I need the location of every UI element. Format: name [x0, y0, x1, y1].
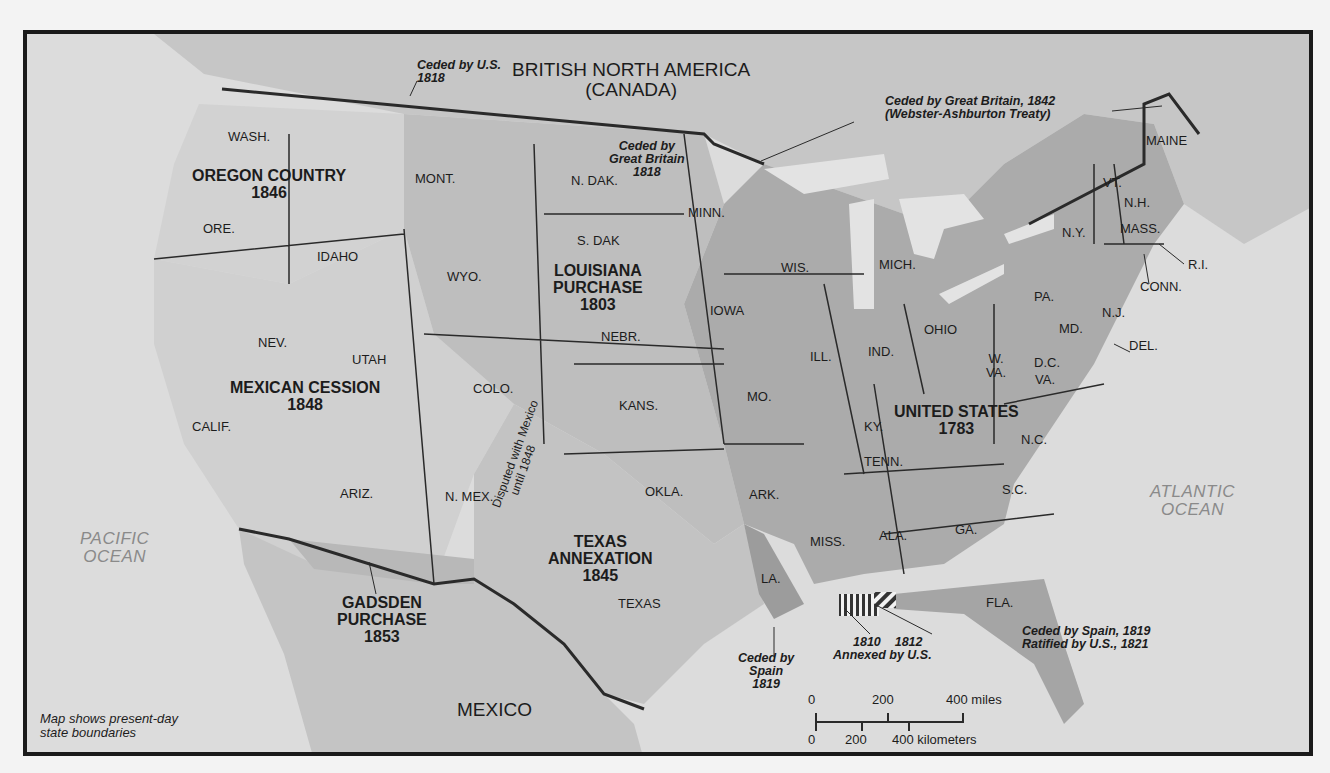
state-wash: WASH.: [228, 130, 270, 144]
state-minn: MINN.: [688, 206, 725, 220]
label-louisiana-purchase: LOUISIANAPURCHASE1803: [553, 263, 643, 313]
state-sc: S.C.: [1002, 483, 1027, 497]
label-british-north-america: BRITISH NORTH AMERICA (CANADA): [512, 60, 750, 100]
state-utah: UTAH: [352, 353, 386, 367]
scale-miles-0: 0: [808, 693, 815, 707]
state-wva: W.VA.: [986, 352, 1006, 379]
label-mexico: MEXICO: [457, 700, 532, 720]
note-webster-ashburton: Ceded by Great Britain, 1842(Webster-Ash…: [885, 95, 1055, 121]
state-ndak: N. DAK.: [571, 174, 618, 188]
label-united-states-1783: UNITED STATES1783: [894, 404, 1019, 438]
state-mont: MONT.: [415, 172, 455, 186]
state-pa: PA.: [1034, 290, 1054, 304]
state-fla: FLA.: [986, 596, 1013, 610]
label-atlantic-ocean: ATLANTICOCEAN: [1150, 483, 1235, 519]
state-nh: N.H.: [1124, 196, 1150, 210]
label-mexican-cession: MEXICAN CESSION1848: [230, 380, 380, 414]
map-caption: Map shows present-daystate boundaries: [40, 712, 178, 739]
state-va: VA.: [1035, 373, 1055, 387]
state-idaho: IDAHO: [317, 250, 358, 264]
state-iowa: IOWA: [710, 304, 744, 318]
state-conn: CONN.: [1140, 280, 1182, 294]
scale-miles-400: 400 miles: [946, 693, 1002, 707]
state-kans: KANS.: [619, 399, 658, 413]
state-nc: N.C.: [1021, 433, 1047, 447]
state-maine: MAINE: [1146, 134, 1187, 148]
state-ky: KY.: [864, 420, 883, 434]
scale-bar-graphic: [816, 713, 964, 731]
state-nebr: NEBR.: [601, 330, 641, 344]
state-ind: IND.: [868, 345, 894, 359]
state-nmex: N. MEX.: [445, 490, 493, 504]
label-pacific-ocean: PACIFICOCEAN: [80, 530, 149, 566]
state-ariz: ARIZ.: [340, 487, 373, 501]
scale-km-400: 400 kilometers: [892, 733, 977, 747]
state-ore: ORE.: [203, 222, 235, 236]
state-ill: ILL.: [810, 350, 832, 364]
note-ceded-by-spain-1819: Ceded bySpain1819: [738, 652, 794, 691]
state-ny: N.Y.: [1062, 226, 1086, 240]
state-miss: MISS.: [810, 535, 845, 549]
scale-miles-200: 200: [872, 693, 894, 707]
state-mich: MICH.: [879, 258, 916, 272]
state-mass: MASS.: [1120, 222, 1160, 236]
state-ala: ALA.: [879, 529, 907, 543]
state-dc: D.C.: [1034, 356, 1060, 370]
state-colo: COLO.: [473, 382, 513, 396]
state-md: MD.: [1059, 322, 1083, 336]
note-florida-ceded: Ceded by Spain, 1819Ratified by U.S., 18…: [1022, 625, 1151, 651]
note-ceded-by-great-britain-1818: Ceded byGreat Britain1818: [609, 140, 685, 179]
state-okla: OKLA.: [645, 485, 683, 499]
state-nj: N.J.: [1102, 306, 1125, 320]
label-gadsden-purchase: GADSDENPURCHASE1853: [337, 595, 427, 645]
label-texas-annexation: TEXASANNEXATION1845: [548, 534, 653, 584]
state-ri: R.I.: [1188, 258, 1208, 272]
state-nev: NEV.: [258, 336, 287, 350]
state-ohio: OHIO: [924, 323, 957, 337]
state-texas: TEXAS: [618, 597, 661, 611]
state-vt: VT.: [1103, 176, 1122, 190]
label-oregon-country: OREGON COUNTRY1846: [192, 168, 346, 202]
state-ark: ARK.: [749, 488, 779, 502]
state-mo: MO.: [747, 390, 772, 404]
state-ga: GA.: [955, 523, 977, 537]
annexed-1810-hatch: [839, 594, 879, 616]
state-tenn: TENN.: [864, 455, 903, 469]
note-annexed-by-us: 1810 1812 Annexed by U.S.: [853, 636, 932, 662]
state-calif: CALIF.: [192, 420, 231, 434]
state-del: DEL.: [1129, 339, 1158, 353]
state-la: LA.: [761, 572, 781, 586]
state-sdak: S. DAK: [577, 234, 620, 248]
note-ceded-by-us-1818: Ceded by U.S.1818: [417, 59, 501, 85]
scale-km-200: 200: [845, 733, 867, 747]
state-wis: WIS.: [781, 261, 809, 275]
state-wyo: WYO.: [447, 270, 482, 284]
scale-km-0: 0: [808, 733, 815, 747]
